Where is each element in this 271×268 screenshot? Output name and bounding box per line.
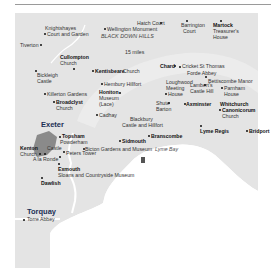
label-sidmouth: Sidmouth — [122, 138, 146, 144]
marker-loughwood — [165, 93, 167, 95]
map: Knightshayes Court and Garden Wellington… — [15, 13, 258, 268]
label-powderham-castle: Castle — [47, 145, 62, 151]
label-cullompton-church: Church — [60, 60, 77, 66]
label-parnham-house: House — [224, 91, 239, 97]
marker-tiverton — [40, 44, 42, 46]
label-wellington: Wellington Monument — [107, 26, 157, 32]
marker-broadclyst — [53, 101, 55, 103]
label-broadclyst-church: Church — [56, 105, 73, 111]
marker-killerton — [44, 93, 46, 95]
label-peters-tower: Peters Tower — [66, 150, 96, 156]
marker-whitchurch — [219, 109, 221, 111]
marker-parnham — [221, 87, 223, 89]
label-bickleigh-castle: Castle — [37, 78, 52, 84]
label-canonicorum-church: Church — [222, 113, 239, 119]
label-cadhay: Cadhay — [99, 112, 117, 118]
marker-kentisbeare — [92, 70, 94, 72]
marker-bridport — [246, 130, 248, 132]
label-honiton-lace: (Lace) — [99, 101, 114, 107]
marker-honiton — [119, 92, 121, 94]
label-treasurers-house: House — [213, 34, 228, 40]
label-blackdown-hills: BLACK DOWN HILLS — [101, 33, 154, 39]
label-torquay: Torquay — [27, 208, 56, 216]
label-lyme-regis: Lyme Regis — [200, 128, 229, 134]
marker-sidmouth — [119, 140, 121, 142]
label-bridport: Bridport — [249, 128, 269, 134]
label-knightshayes-2: Court and Garden — [47, 31, 89, 37]
marker-shute — [168, 102, 170, 104]
marker-peters-tower — [63, 151, 65, 153]
marker-torre-abbey — [23, 219, 25, 221]
label-axminster: Axminster — [186, 101, 211, 107]
label-torre-abbey: Torre Abbey — [27, 216, 55, 222]
label-cricket-st-thomas: Cricket St Thomas — [182, 63, 225, 69]
label-a-la-ronde: A la Ronde — [33, 156, 58, 162]
label-hembury-hillfort: Hembury Hillfort — [104, 81, 141, 87]
label-tiverton: Tiverton — [20, 42, 39, 48]
marker-lyme-regis — [200, 125, 202, 127]
label-dawlish: Dawlish — [41, 180, 61, 186]
scale-label: 15 miles — [125, 49, 144, 55]
marker-chard — [174, 65, 176, 67]
label-exeter: Exeter — [41, 121, 64, 129]
label-blackbury-castle: Castle and Hillfort — [122, 122, 163, 128]
label-killerton-gardens: Killerton Gardens — [47, 91, 87, 97]
label-loughwood-3: House — [168, 91, 183, 97]
marker-cadhay — [96, 114, 98, 116]
marker-hembury — [101, 83, 103, 85]
label-lyme-bay: Lyme Bay — [155, 146, 178, 152]
marker-lamberts — [204, 84, 206, 86]
marker-kenton — [39, 153, 41, 155]
label-branscombe: Branscombe — [151, 133, 182, 139]
marker-cricket — [179, 66, 181, 68]
label-kentisbeare: Kentisbeare — [95, 68, 125, 74]
marker-branscombe — [148, 135, 150, 137]
label-kentisbeare-church: Church — [123, 68, 140, 74]
marker-exmouth — [58, 163, 60, 165]
marker-knightshayes — [44, 33, 46, 35]
branscombe-icon — [141, 157, 145, 163]
marker-topsham — [59, 136, 61, 138]
label-powderham: Powderham — [60, 139, 88, 145]
marker-a-la-ronde — [59, 156, 61, 158]
marker-dawlish — [41, 177, 43, 179]
marker-bettiscombe — [205, 76, 207, 78]
label-lamberts-castle-hill: Castle Hill — [190, 88, 213, 94]
marker-cullompton — [73, 68, 75, 70]
label-barrington-2: Court — [183, 28, 196, 34]
label-bettiscombe-manor: Bettiscombe Manor — [208, 78, 253, 84]
marker-wellington — [104, 28, 106, 30]
top-rule — [15, 4, 271, 5]
label-shute-barton: Barton — [156, 106, 171, 112]
marker-hatch-court — [160, 22, 162, 24]
marker-powderham — [44, 153, 46, 155]
label-exmouth-museum: Sloans and Countryside Museum — [58, 172, 134, 178]
label-forde-abbey: Forde Abbey — [187, 70, 216, 76]
label-chard: Chard — [160, 63, 175, 69]
